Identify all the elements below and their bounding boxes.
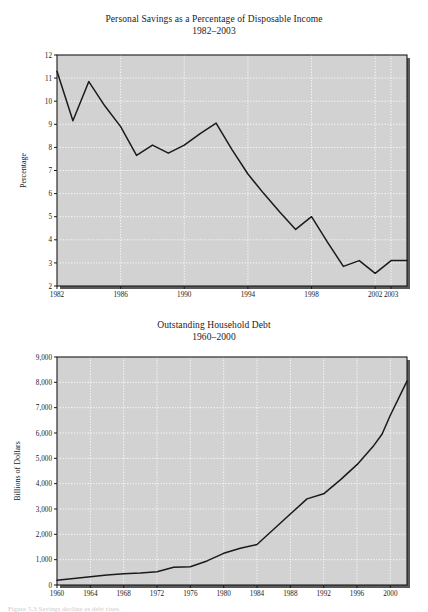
x-tick-label: 1994	[241, 291, 256, 299]
x-tick-label: 1972	[150, 590, 165, 598]
y-tick-label: 6,000	[36, 430, 53, 438]
figure-household-debt: Outstanding Household Debt 1960–2000 01,…	[0, 306, 428, 612]
x-tick-label: 1968	[116, 590, 131, 598]
x-tick-label: 1960	[50, 590, 65, 598]
y-tick-label: 5	[48, 213, 52, 221]
x-tick-label: 1992	[316, 590, 331, 598]
y-tick-label: 4,000	[36, 480, 53, 488]
y-tick-label: 7	[48, 167, 52, 175]
y-tick-label: 9,000	[36, 354, 53, 362]
y-axis-title: Percentage	[19, 153, 28, 189]
chart-title-text-bottom: Outstanding Household Debt	[157, 320, 270, 330]
y-axis-title: Billions of Dollars	[13, 441, 22, 501]
chart-subtitle-bottom: 1960–2000	[0, 332, 428, 344]
x-tick-label: 1996	[350, 590, 365, 598]
y-tick-label: 2	[48, 283, 52, 291]
y-tick-label: 3,000	[36, 506, 53, 514]
x-tick-label: 1984	[250, 590, 265, 598]
x-tick-label: 2003	[384, 291, 399, 299]
plot-area-bottom: 01,0002,0003,0004,0005,0006,0007,0008,00…	[0, 343, 428, 605]
plot-area-top: 2345678910111219821986199019941998200220…	[0, 37, 428, 305]
figure-caption: Figure 5.3 Savings decline as debt rises…	[8, 605, 121, 612]
x-tick-label: 1964	[83, 590, 98, 598]
chart-title-bottom: Outstanding Household Debt 1960–2000	[0, 306, 428, 343]
chart-title-text-top: Personal Savings as a Percentage of Disp…	[105, 14, 322, 24]
chart-title-top: Personal Savings as a Percentage of Disp…	[0, 0, 428, 37]
x-tick-label: 1998	[304, 291, 319, 299]
y-tick-label: 8,000	[36, 379, 53, 387]
y-tick-label: 9	[48, 121, 52, 129]
y-tick-label: 6	[48, 190, 52, 198]
figure-personal-savings: Personal Savings as a Percentage of Disp…	[0, 0, 428, 306]
y-tick-label: 12	[45, 52, 53, 60]
x-tick-label: 1988	[283, 590, 298, 598]
x-tick-label: 1986	[113, 291, 128, 299]
y-tick-label: 11	[45, 75, 52, 83]
y-tick-label: 0	[48, 582, 52, 590]
chart-svg-bottom: 01,0002,0003,0004,0005,0006,0007,0008,00…	[0, 343, 428, 605]
chart-subtitle-top: 1982–2003	[0, 26, 428, 38]
x-tick-label: 1982	[50, 291, 65, 299]
x-tick-label: 1980	[216, 590, 231, 598]
x-tick-label: 1990	[177, 291, 192, 299]
y-tick-label: 1,000	[36, 556, 53, 564]
y-tick-label: 5,000	[36, 455, 53, 463]
y-tick-label: 4	[48, 236, 52, 244]
y-tick-label: 3	[48, 260, 52, 268]
y-tick-label: 2,000	[36, 531, 53, 539]
x-tick-label: 1976	[183, 590, 198, 598]
x-tick-label: 2000	[383, 590, 398, 598]
y-tick-label: 8	[48, 144, 52, 152]
x-tick-label: 2002	[368, 291, 383, 299]
chart-svg-top: 2345678910111219821986199019941998200220…	[0, 37, 428, 305]
y-tick-label: 10	[45, 98, 53, 106]
y-tick-label: 7,000	[36, 404, 53, 412]
